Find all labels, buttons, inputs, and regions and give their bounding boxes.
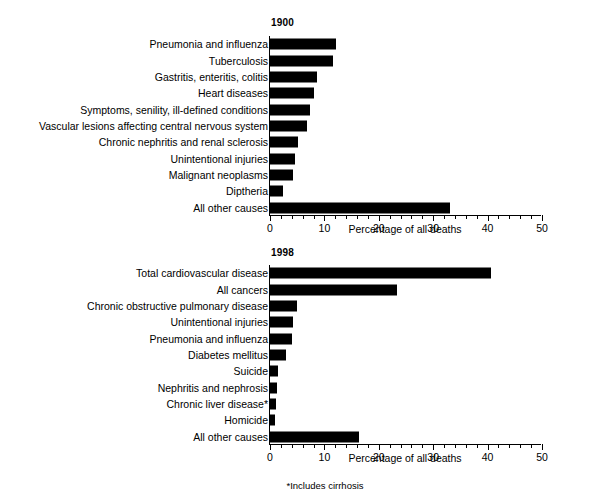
- x-axis-major-tick: [433, 444, 434, 450]
- bar: [270, 153, 295, 164]
- bar-row: Diptheria: [0, 183, 589, 199]
- x-axis-minor-tick: [477, 215, 478, 219]
- bar-row: Heart diseases: [0, 85, 589, 101]
- category-label: Nephritis and nephrosis: [158, 382, 268, 393]
- bar: [270, 88, 314, 99]
- bar-row: Pneumonia and influenza: [0, 330, 589, 346]
- x-axis-minor-tick: [314, 444, 315, 448]
- bar: [270, 120, 307, 131]
- category-label: Symptoms, senility, ill-defined conditio…: [80, 104, 268, 115]
- bar-row: Chronic nephritis and renal sclerosis: [0, 134, 589, 150]
- x-axis-major-tick: [270, 444, 271, 450]
- bar: [270, 317, 293, 328]
- x-axis-tick-label: 0: [267, 222, 273, 234]
- x-axis-major-tick: [488, 444, 489, 450]
- x-axis-tick-label: 0: [267, 451, 273, 463]
- category-label: Malignant neoplasms: [169, 170, 268, 181]
- x-axis-minor-tick: [390, 215, 391, 219]
- bar: [270, 300, 297, 311]
- category-label: Chronic liver disease*: [166, 399, 268, 410]
- chart-panel-1998: 1998 Total cardiovascular diseaseAll can…: [0, 245, 589, 503]
- bar: [270, 399, 276, 410]
- x-axis-title-1998: Percentage of all deaths: [348, 452, 461, 464]
- bar-row: Malignant neoplasms: [0, 167, 589, 183]
- chart-title-1998: 1998: [271, 247, 294, 258]
- x-axis-tick-label: 40: [482, 451, 494, 463]
- bar: [270, 349, 286, 360]
- category-label: Gastritis, enteritis, colitis: [155, 72, 268, 83]
- x-axis-major-tick: [433, 215, 434, 221]
- category-label: Pneumonia and influenza: [149, 333, 268, 344]
- x-axis-minor-tick: [390, 444, 391, 448]
- category-label: Tuberculosis: [209, 55, 268, 66]
- x-axis-minor-tick: [455, 215, 456, 219]
- x-axis-minor-tick: [314, 215, 315, 219]
- x-axis-minor-tick: [466, 215, 467, 219]
- bar-row: All other causes: [0, 200, 589, 216]
- x-axis-minor-tick: [368, 444, 369, 448]
- bar: [270, 415, 275, 426]
- x-axis-minor-tick: [531, 215, 532, 219]
- bar: [270, 55, 333, 66]
- bar: [270, 284, 397, 295]
- category-label: Total cardiovascular disease: [136, 268, 268, 279]
- x-axis-minor-tick: [401, 444, 402, 448]
- bar: [270, 366, 278, 377]
- x-axis-minor-tick: [346, 444, 347, 448]
- x-axis-minor-tick: [520, 444, 521, 448]
- x-axis-major-tick: [488, 215, 489, 221]
- bar-row: All other causes: [0, 429, 589, 445]
- bar-rows-1900: Pneumonia and influenzaTuberculosisGastr…: [0, 36, 589, 216]
- category-label: Unintentional injuries: [171, 153, 268, 164]
- bar: [270, 170, 293, 181]
- x-axis-minor-tick: [303, 444, 304, 448]
- bar-row: Unintentional injuries: [0, 151, 589, 167]
- x-axis-line-1998: [269, 444, 541, 445]
- category-label: All other causes: [193, 432, 268, 443]
- category-label: All other causes: [193, 203, 268, 214]
- x-axis-minor-tick: [509, 215, 510, 219]
- x-axis-minor-tick: [466, 444, 467, 448]
- figure-footnote: *Includes cirrhosis: [286, 480, 363, 491]
- bar: [270, 382, 277, 393]
- bar: [270, 137, 298, 148]
- x-axis-minor-tick: [477, 444, 478, 448]
- x-axis-minor-tick: [411, 215, 412, 219]
- x-axis-minor-tick: [422, 215, 423, 219]
- x-axis-title-1900: Percentage of all deaths: [348, 223, 461, 235]
- x-axis-minor-tick: [357, 444, 358, 448]
- x-axis-major-tick: [324, 444, 325, 450]
- x-axis-tick-label: 10: [319, 451, 331, 463]
- bar-row: Homicide: [0, 412, 589, 428]
- x-axis-tick-label: 10: [319, 222, 331, 234]
- x-axis-minor-tick: [411, 444, 412, 448]
- x-axis-minor-tick: [292, 444, 293, 448]
- figure-leading-causes-of-death: 1900 Pneumonia and influenzaTuberculosis…: [0, 0, 589, 503]
- bar-row: Symptoms, senility, ill-defined conditio…: [0, 101, 589, 117]
- category-label: Chronic obstructive pulmonary disease: [87, 301, 268, 312]
- bar: [270, 186, 283, 197]
- x-axis-minor-tick: [368, 215, 369, 219]
- x-axis-minor-tick: [531, 444, 532, 448]
- x-axis-minor-tick: [498, 444, 499, 448]
- x-axis-tick-label: 50: [536, 451, 548, 463]
- x-axis-major-tick: [542, 215, 543, 221]
- x-axis-minor-tick: [357, 215, 358, 219]
- bar-row: All cancers: [0, 281, 589, 297]
- x-axis-minor-tick: [422, 444, 423, 448]
- bar-row: Chronic liver disease*: [0, 396, 589, 412]
- bar-row: Total cardiovascular disease: [0, 265, 589, 281]
- x-axis-minor-tick: [455, 444, 456, 448]
- x-axis-minor-tick: [335, 215, 336, 219]
- category-label: Homicide: [224, 415, 268, 426]
- bar-row: Suicide: [0, 363, 589, 379]
- category-label: Heart diseases: [198, 88, 268, 99]
- bar: [270, 71, 317, 82]
- y-axis-line-1900: [269, 36, 270, 216]
- bar-row: Chronic obstructive pulmonary disease: [0, 298, 589, 314]
- x-axis-major-tick: [379, 444, 380, 450]
- x-axis-minor-tick: [303, 215, 304, 219]
- x-axis-line-1900: [269, 215, 541, 216]
- bar-row: Pneumonia and influenza: [0, 36, 589, 52]
- bar-row: Diabetes mellitus: [0, 347, 589, 363]
